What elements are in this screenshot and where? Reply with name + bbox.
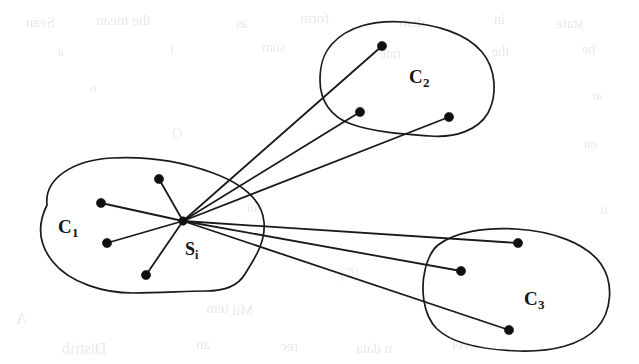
member-node-c1-n3 xyxy=(102,238,111,247)
member-node-c2-n1 xyxy=(377,41,386,50)
member-node-c2-n3 xyxy=(444,112,453,121)
member-node-c1-n2 xyxy=(96,198,105,207)
edge-si-to-c2-n2 xyxy=(183,112,360,221)
member-node-c1-n4 xyxy=(141,270,150,279)
edge-si-to-c3-n2 xyxy=(183,221,461,271)
member-node-c2-n2 xyxy=(355,107,364,116)
edge-si-to-c1-n2 xyxy=(101,203,183,221)
edge-si-to-c2-n1 xyxy=(183,46,382,221)
member-node-c3-n3 xyxy=(504,325,513,334)
member-node-c3-n2 xyxy=(456,266,465,275)
member-node-c1-n1 xyxy=(154,174,163,183)
figure-canvas: Seanthe meanasformdistrinstatealsumratet… xyxy=(0,0,639,364)
cluster-label-c3: C3 xyxy=(524,288,545,312)
edge-si-to-c1-n3 xyxy=(107,221,183,243)
cluster-diagram-svg: C1C2C3Si xyxy=(0,0,639,364)
cluster-label-c1: C1 xyxy=(58,216,79,240)
cluster-label-c2: C2 xyxy=(409,66,430,90)
edges-group xyxy=(101,46,518,330)
member-nodes-group xyxy=(96,41,522,334)
edge-si-to-c1-n4 xyxy=(146,221,183,275)
member-node-c3-n1 xyxy=(513,238,522,247)
cluster-outline-c2 xyxy=(320,22,494,137)
hub-node-si xyxy=(179,217,187,225)
hub-label-si: Si xyxy=(185,239,199,262)
edge-si-to-c1-n1 xyxy=(159,179,183,221)
edge-si-to-c2-n3 xyxy=(183,117,449,221)
labels-group: C1C2C3Si xyxy=(58,66,545,312)
